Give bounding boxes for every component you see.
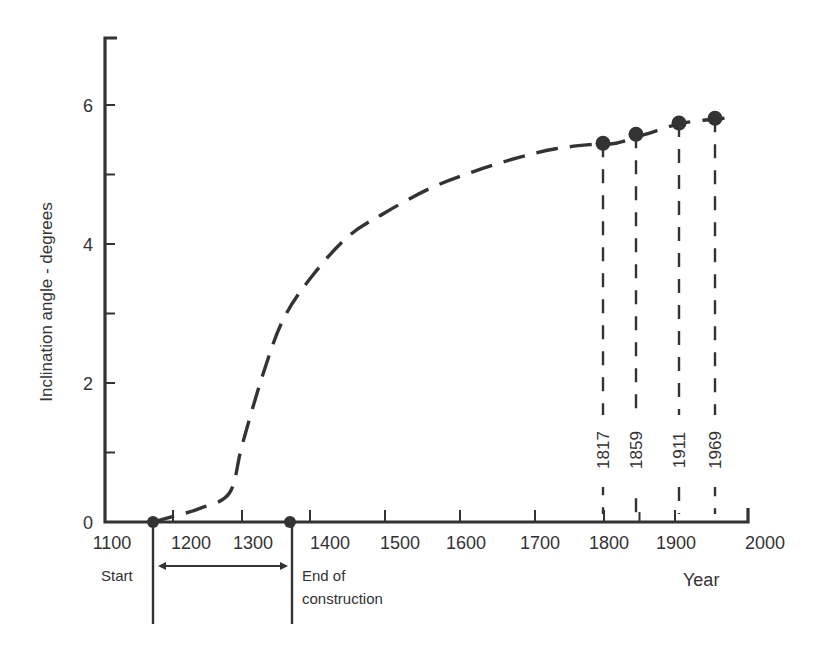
measured-points: 1817185919111969 — [594, 111, 725, 514]
end-dot — [284, 516, 296, 528]
x-tick-label: 1700 — [520, 533, 560, 553]
data-point — [672, 116, 687, 131]
measurement-year-label: 1911 — [670, 432, 689, 469]
arrowhead-left — [158, 562, 166, 570]
start-dot — [147, 516, 159, 528]
measurement-year-label: 1859 — [627, 431, 646, 469]
data-point — [629, 127, 644, 142]
y-tick-label: 4 — [83, 235, 93, 255]
y-tick-label: 0 — [83, 513, 93, 533]
data-point — [708, 111, 723, 126]
x-tick-label: 1100 — [93, 533, 132, 553]
construction-annotations — [147, 516, 296, 624]
x-tick-label: 1200 — [171, 533, 211, 553]
x-tick-label: 1400 — [310, 533, 350, 553]
measurement-year-label: 1969 — [706, 431, 725, 469]
x-tick-label: 1900 — [656, 533, 696, 553]
y-tick-label: 6 — [83, 96, 93, 116]
end-of-construction-label-line2: construction — [302, 590, 383, 607]
arrowhead-right — [280, 562, 288, 570]
x-tick-label: 2000 — [745, 533, 785, 553]
inclination-chart: 0246110012001300140015001600170018001900… — [0, 0, 825, 659]
data-point — [596, 136, 611, 151]
axis-lines — [105, 38, 748, 522]
y-axis-label: Inclination angle - degrees — [37, 202, 56, 401]
end-of-construction-label-line1: End of — [302, 567, 346, 584]
y-tick-label: 2 — [83, 374, 93, 394]
x-tick-label: 1800 — [589, 533, 629, 553]
measurement-year-label: 1817 — [594, 431, 613, 469]
x-tick-label: 1600 — [446, 533, 486, 553]
x-axis-label: Year — [683, 570, 719, 590]
x-tick-label: 1500 — [380, 533, 420, 553]
start-label: Start — [101, 567, 134, 584]
x-tick-label: 1300 — [233, 533, 273, 553]
